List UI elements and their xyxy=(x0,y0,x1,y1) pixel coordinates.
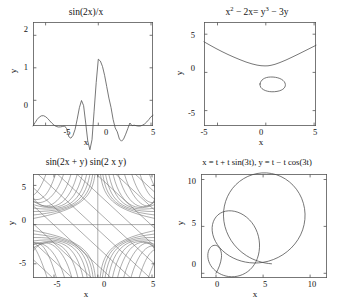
y-tick-label: -5 xyxy=(177,108,195,118)
x-axis-label: x xyxy=(231,137,291,147)
x-tick-label: 5 xyxy=(144,127,162,137)
x-tick-label: -5 xyxy=(195,127,213,137)
x-axis-label: x xyxy=(243,289,267,299)
curve-elliptic-oval xyxy=(260,77,285,92)
x-axis-label: x xyxy=(56,137,116,147)
axes-frame xyxy=(204,22,315,125)
tick-marks xyxy=(33,22,152,125)
y-tick-label: 10 xyxy=(176,176,196,186)
plot-panel-parametric: x = t + t sin(3t), y = t − t cos(3t) 10 … xyxy=(171,152,343,306)
x-tick-label: 0 xyxy=(252,127,270,137)
y-tick-label: 5 xyxy=(8,182,26,192)
plot-panel-elliptic: x2 − 2x= y3 − 3y 5 0 -5 -5 0 5 x y xyxy=(171,0,343,153)
panel-title-parametric: x = t + t sin(3t), y = t − t cos(3t) xyxy=(171,157,343,168)
x-axis-label: x xyxy=(74,289,98,299)
y-axis-label: y xyxy=(174,58,184,88)
y-tick-label: 5 xyxy=(177,30,195,40)
plot-parametric-svg xyxy=(201,174,327,278)
title-term-b: − 2x= y xyxy=(234,7,266,17)
panel-title-contour: sin(2x + y) sin(2 x y) xyxy=(0,157,172,168)
plot-panel-sinc: sin(2x)/x 2 1 0 -5 0 5 x xyxy=(0,0,172,153)
x-tick-label: 5 xyxy=(306,127,324,137)
panel-title-sinc: sin(2x)/x xyxy=(0,7,172,18)
x-tick-label: 0 xyxy=(95,279,113,289)
y-axis-label: y xyxy=(6,208,16,238)
x-tick-label: 5 xyxy=(256,279,274,289)
x-tick-label: 10 xyxy=(302,279,322,289)
y-tick-label: 0 xyxy=(12,100,28,110)
axes-frame xyxy=(33,22,152,125)
curve-parametric xyxy=(208,173,305,277)
y-axis-label: y xyxy=(8,56,18,86)
y-tick-label: 0 xyxy=(176,259,196,269)
tick-marks xyxy=(204,22,315,125)
plot-sinc-svg xyxy=(33,22,153,126)
plot-contour-svg xyxy=(33,174,155,278)
y-axis-label: y xyxy=(175,208,185,238)
x-tick-label: 5 xyxy=(144,279,162,289)
curve-elliptic-branch xyxy=(204,42,316,66)
plot-elliptic-svg xyxy=(204,22,316,126)
figure-canvas: sin(2x)/x 2 1 0 -5 0 5 x xyxy=(0,0,343,306)
plot-panel-contour: sin(2x + y) sin(2 x y) 5 0 -5 -5 0 5 x y xyxy=(0,152,172,306)
y-tick-label: 2 xyxy=(12,24,28,34)
x-tick-label: -5 xyxy=(48,279,66,289)
x-tick-label: 0 xyxy=(208,279,226,289)
x-tick-label: 0 xyxy=(97,127,115,137)
panel-title-elliptic: x2 − 2x= y3 − 3y xyxy=(171,7,343,18)
y-tick-label: -5 xyxy=(6,258,26,268)
title-term-c: − 3y xyxy=(269,7,289,17)
